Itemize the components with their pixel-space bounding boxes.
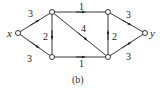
figure-caption: (b) (72, 74, 84, 85)
node-b (50, 55, 55, 60)
edge-weight: 4 (81, 23, 86, 34)
node-d (106, 55, 111, 60)
edge-weight: 2 (43, 31, 48, 42)
edge-weight: 3 (126, 51, 131, 62)
node-y (143, 31, 148, 36)
edge-weight: 3 (28, 8, 33, 19)
edge-weight: 1 (79, 58, 84, 69)
edge-d-c: 2 (108, 12, 117, 57)
edge-c-y: 3 (108, 9, 145, 33)
arrow-icon (122, 20, 130, 25)
node-x (16, 31, 21, 36)
arrow-icon (122, 43, 130, 48)
edge-weight: 1 (79, 1, 84, 12)
node-label-y: y (149, 27, 155, 39)
edge-weight: 3 (126, 9, 131, 20)
node-c (106, 10, 111, 15)
edge-b-d: 1 (52, 57, 108, 69)
edge-a-c: 1 (52, 1, 108, 12)
edge-weight: 2 (112, 31, 117, 42)
edge-x-a: 3 (18, 8, 52, 33)
edge-a-d: 4 (52, 12, 108, 57)
node-label-x: x (6, 27, 12, 39)
edge-a-b: 2 (43, 12, 52, 57)
arrow-icon (30, 42, 38, 48)
edge-weight: 3 (27, 53, 32, 64)
node-a (50, 10, 55, 15)
arrow-icon (30, 21, 38, 26)
